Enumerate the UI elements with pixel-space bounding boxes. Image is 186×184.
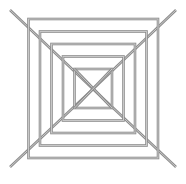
nested-squares-diagram [0, 0, 186, 184]
figure-canvas [0, 0, 186, 184]
inner-cross-group [75, 69, 113, 108]
